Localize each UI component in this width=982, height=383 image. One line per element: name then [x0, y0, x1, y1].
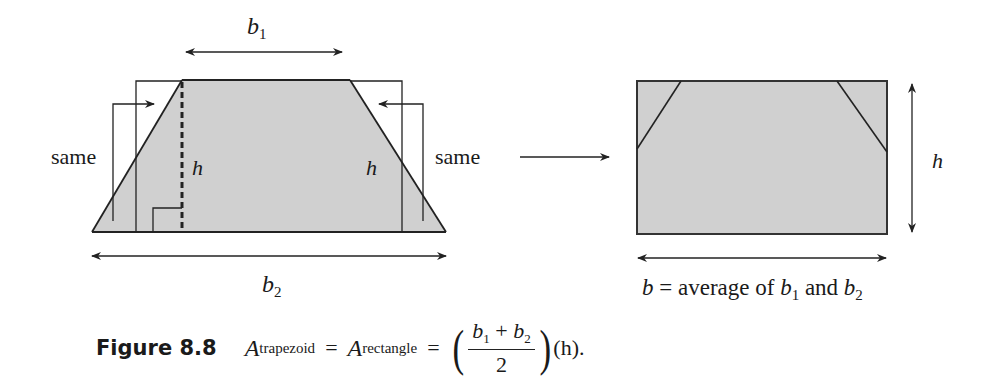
fraction: b1 + b2 2: [468, 318, 534, 378]
rect-base-caption: b = average of b1 and b2: [642, 276, 863, 303]
h-label-trapezoid-inner: h: [192, 157, 203, 179]
same-label-left: same: [51, 146, 96, 168]
h-label-rectangle: h: [932, 150, 943, 172]
b2-label: b2: [262, 272, 282, 300]
area-equation: Atrapezoid = Arectangle = ( b1 + b2 2 ) …: [245, 318, 585, 378]
figure-caption: Figure 8.8 Atrapezoid = Arectangle = ( b…: [96, 318, 585, 378]
b1-label: b1: [247, 14, 267, 42]
trapezoid-shape: [92, 80, 446, 232]
h-label-trapezoid-right: h: [366, 157, 377, 179]
rectangle-shape: [637, 81, 887, 234]
figure-number: Figure 8.8: [96, 336, 217, 360]
same-label-right: same: [435, 146, 480, 168]
